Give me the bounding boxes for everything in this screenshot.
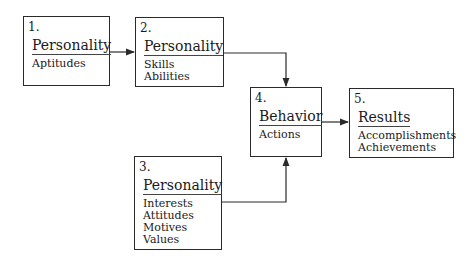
node-items: Interests Attitudes Motives Values xyxy=(143,198,194,246)
node-3-personality-interests: 3. Personality Interests Attitudes Motiv… xyxy=(134,156,222,250)
node-items: Skills Abilities xyxy=(144,59,190,83)
edge-3-to-4 xyxy=(222,158,286,202)
node-item: Aptitudes xyxy=(32,58,86,70)
node-5-results: 5. Results Accomplishments Achievements xyxy=(349,88,454,158)
node-item: Values xyxy=(143,234,194,246)
node-item: Achievements xyxy=(358,142,456,154)
node-number: 4. xyxy=(255,91,266,105)
node-title: Results xyxy=(358,109,410,127)
node-title: Personality xyxy=(144,38,223,56)
node-item: Actions xyxy=(259,129,300,141)
node-number: 1. xyxy=(28,20,39,34)
node-items: Aptitudes xyxy=(32,58,86,70)
node-number: 3. xyxy=(139,160,150,174)
node-title: Behavior xyxy=(259,108,322,126)
edge-2-to-4 xyxy=(224,53,286,86)
node-1-personality-aptitudes: 1. Personality Aptitudes xyxy=(23,16,110,86)
node-items: Actions xyxy=(259,129,300,141)
node-number: 2. xyxy=(140,21,151,35)
node-items: Accomplishments Achievements xyxy=(358,130,456,154)
node-title: Personality xyxy=(143,177,222,195)
node-number: 5. xyxy=(354,92,365,106)
node-item: Abilities xyxy=(144,71,190,83)
node-title: Personality xyxy=(32,37,111,55)
node-4-behavior: 4. Behavior Actions xyxy=(250,87,322,157)
node-2-personality-skills: 2. Personality Skills Abilities xyxy=(135,17,224,87)
